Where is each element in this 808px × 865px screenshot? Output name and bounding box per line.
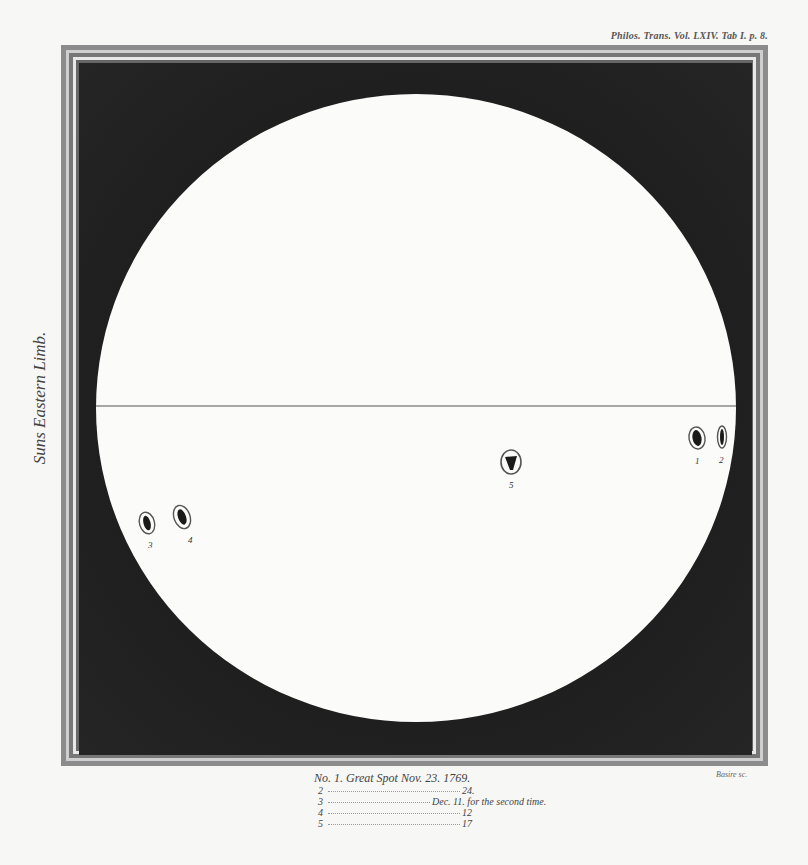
caption-number: 2 — [318, 785, 328, 796]
spot-number-label: 1 — [695, 456, 700, 466]
caption-line: 224. — [318, 785, 618, 796]
caption-line: No. 1. Great Spot Nov. 23. 1769. — [314, 771, 618, 785]
caption-date: 24. — [462, 785, 475, 796]
caption-date: 12 — [462, 807, 472, 818]
engraver-signature: Basire sc. — [716, 770, 747, 779]
leader-dots — [328, 813, 460, 814]
caption-line: 3Dec. 11. for the second time. — [318, 796, 618, 807]
caption-line: 412 — [318, 807, 618, 818]
caption-number: 4 — [318, 807, 328, 818]
spot-number-label: 3 — [148, 540, 153, 550]
leader-dots — [328, 802, 430, 803]
solar-disc — [96, 94, 736, 722]
spot-number-label: 5 — [509, 480, 514, 490]
caption-number: 3 — [318, 796, 328, 807]
caption-number: No. 1. — [314, 771, 343, 785]
caption-date: 17 — [462, 818, 472, 829]
spot-number-label: 4 — [188, 535, 193, 545]
caption-number: 5 — [318, 818, 328, 829]
eastern-limb-label: Suns Eastern Limb. — [30, 332, 50, 465]
leader-dots — [328, 791, 460, 792]
caption-text: Great Spot Nov. 23. 1769. — [346, 771, 470, 785]
spot-number-label: 2 — [719, 455, 724, 465]
leader-dots — [328, 824, 460, 825]
solar-disc-drawing — [0, 0, 808, 865]
caption-block: No. 1. Great Spot Nov. 23. 1769. 224. 3D… — [318, 771, 618, 829]
caption-line: 517 — [318, 818, 618, 829]
caption-date: Dec. 11. for the second time. — [432, 796, 546, 807]
